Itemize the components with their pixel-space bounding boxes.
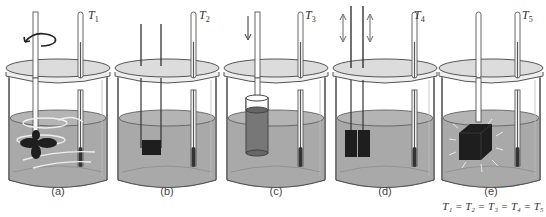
cylinder-icon: [246, 95, 268, 156]
rotation-arrow-icon: [25, 34, 56, 46]
thermometer-label-t4: T4: [414, 8, 425, 24]
thermometer-label-t5: T5: [522, 8, 533, 24]
caption-b: (b): [112, 185, 222, 197]
thermometer-label-t3: T3: [305, 8, 316, 24]
panel-d-drawing: [333, 6, 437, 188]
panel-b-drawing: [115, 12, 219, 188]
panel-c-drawing: [224, 12, 328, 188]
resistor-block-icon: [142, 140, 161, 155]
thermometer-label-t1: T1: [88, 8, 99, 24]
panel-e-drawing: [439, 12, 543, 188]
thermometer-label-t2: T2: [199, 8, 210, 24]
figure-stage: T1 T2 T3 T4 T5 (a) (b) (c) (d) (e) T₁ = …: [0, 0, 546, 217]
panel-a-drawing: [6, 12, 110, 188]
temperature-equality-equation: T₁ = T₂ = T₃ = T₄ = T₅: [440, 200, 546, 212]
caption-a: (a): [3, 185, 113, 197]
caption-c: (c): [221, 185, 331, 197]
caption-e: (e): [436, 185, 546, 197]
caption-d: (d): [330, 185, 440, 197]
up-down-arrow-icon: [340, 14, 373, 42]
